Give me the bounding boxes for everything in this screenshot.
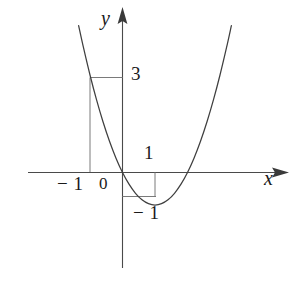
y-tick-label-3: 3 bbox=[131, 64, 141, 83]
x-axis-label: x bbox=[264, 168, 273, 188]
y-tick-label-minus-1: − 1 bbox=[133, 203, 159, 222]
x-tick-label-1: 1 bbox=[144, 143, 154, 162]
parabola-figure: y x 3 1 − 1 0 − 1 bbox=[0, 0, 294, 283]
origin-label: 0 bbox=[99, 175, 108, 192]
y-axis-label: y bbox=[101, 8, 110, 28]
axis-group bbox=[28, 7, 289, 268]
x-tick-label-minus-1: − 1 bbox=[57, 174, 83, 193]
